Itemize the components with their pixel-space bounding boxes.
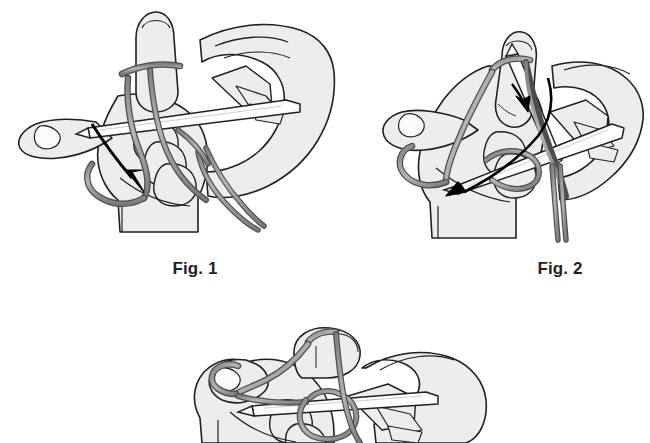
illustration-sheet: Fig. 1 Fig. 2 (0, 0, 650, 443)
figure-2-illustration (340, 0, 650, 250)
figure-2-caption: Fig. 2 (505, 259, 615, 279)
figure-1-caption: Fig. 1 (140, 259, 250, 279)
figure-1-illustration (0, 0, 340, 250)
figure-3-illustration (170, 300, 510, 443)
